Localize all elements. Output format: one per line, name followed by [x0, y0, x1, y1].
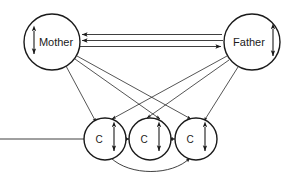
node-mother[interactable]: Mother	[24, 14, 80, 70]
edge-father-to-child-middle	[147, 60, 229, 118]
edge-group-mother-children	[66, 56, 191, 122]
node-father[interactable]: Father	[224, 14, 280, 70]
edge-mother-to-child-middle	[75, 59, 160, 119]
edge-father-to-child-left	[112, 56, 227, 119]
child-middle-circle[interactable]	[129, 118, 171, 160]
edge-mother-to-child-right	[77, 56, 191, 119]
edge-mother-to-child-left	[66, 66, 96, 122]
family-system-diagram: Mother Father C C	[0, 0, 300, 175]
father-label: Father	[233, 36, 265, 48]
child-left-label: C	[95, 134, 102, 145]
edge-group-father-children	[112, 56, 238, 121]
edge-group-parent-parent	[79, 35, 223, 47]
child-left-circle[interactable]	[84, 118, 126, 160]
child-right-circle[interactable]	[175, 118, 217, 160]
child-right-label: C	[186, 134, 193, 145]
node-child-left[interactable]: C	[84, 118, 126, 160]
diagram-canvas: Mother Father C C	[0, 0, 300, 175]
node-child-right[interactable]: C	[175, 118, 217, 160]
child-middle-label: C	[140, 134, 147, 145]
node-child-middle[interactable]: C	[129, 118, 171, 160]
edge-father-to-child-right	[204, 67, 238, 121]
mother-label: Mother	[39, 36, 74, 48]
